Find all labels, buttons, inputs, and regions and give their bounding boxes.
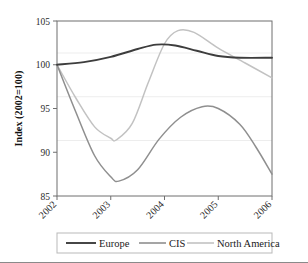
y-tick-label: 95 xyxy=(41,104,51,114)
chart-figure: 105 100 95 90 85 Index (2002=100) 2002 2… xyxy=(0,0,308,263)
x-tick-label: 2006 xyxy=(251,199,273,221)
x-tick-label: 2003 xyxy=(90,199,112,221)
x-tick-label: 2004 xyxy=(144,199,166,221)
plot-background xyxy=(57,21,272,196)
y-tick-label: 90 xyxy=(41,148,51,158)
line-chart: 105 100 95 90 85 Index (2002=100) 2002 2… xyxy=(0,0,308,263)
x-tick-label: 2002 xyxy=(36,199,58,221)
y-tick-label: 100 xyxy=(36,60,51,70)
y-axis-title: Index (2002=100) xyxy=(13,71,25,147)
y-tick-label: 105 xyxy=(36,17,51,27)
legend-label-europe: Europe xyxy=(99,238,130,249)
x-tick-marks xyxy=(57,196,272,200)
legend: Europe CIS North America xyxy=(57,233,280,253)
x-axis-tick-labels: 2002 2003 2004 2005 2006 xyxy=(36,199,273,221)
legend-label-cis: CIS xyxy=(169,238,186,249)
x-tick-label: 2005 xyxy=(198,199,220,221)
legend-label-north-america: North America xyxy=(217,238,280,249)
y-tick-marks xyxy=(53,21,57,196)
y-axis-tick-labels: 105 100 95 90 85 xyxy=(36,17,51,202)
